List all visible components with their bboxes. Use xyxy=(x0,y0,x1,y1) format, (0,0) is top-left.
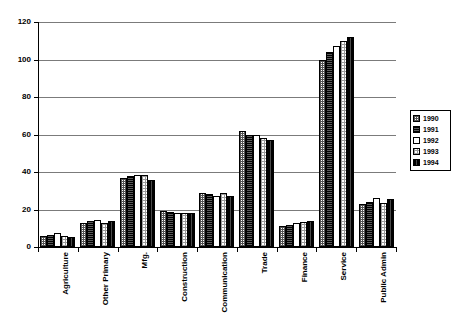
bar xyxy=(167,212,174,247)
bar xyxy=(40,236,47,247)
y-axis-tick-label: 0 xyxy=(27,243,31,251)
bar-group xyxy=(277,22,317,247)
y-axis-tick-label: 40 xyxy=(22,168,31,176)
bar-group xyxy=(356,22,396,247)
chart-figure: 020406080100120 19901991199219931994 Agr… xyxy=(0,0,464,326)
bar xyxy=(120,178,127,247)
legend-label: 1993 xyxy=(423,148,439,155)
bar-group xyxy=(118,22,158,247)
bar xyxy=(213,196,220,247)
bar-group xyxy=(78,22,118,247)
bar-group-bars xyxy=(316,22,356,247)
bar xyxy=(347,37,354,247)
x-axis-line xyxy=(38,247,397,248)
legend-item-1992[interactable]: 1992 xyxy=(413,135,448,146)
x-axis-tick-label: Construction xyxy=(181,252,189,302)
bar-group-bars xyxy=(38,22,78,247)
bar xyxy=(326,52,333,247)
bar xyxy=(199,193,206,247)
bar xyxy=(61,236,68,247)
x-axis-tick xyxy=(356,247,357,252)
x-axis-tick xyxy=(38,247,39,252)
legend-item-1993[interactable]: 1993 xyxy=(413,146,448,157)
x-axis-tick-label: Other Primary xyxy=(102,252,110,305)
x-axis-tick-label: Trade xyxy=(261,252,269,273)
bar xyxy=(380,203,387,247)
bar-group xyxy=(157,22,197,247)
bar xyxy=(220,193,227,247)
x-axis-tick xyxy=(277,247,278,252)
bar-group xyxy=(316,22,356,247)
bar xyxy=(101,223,108,247)
bar xyxy=(373,198,380,247)
bar xyxy=(293,223,300,247)
bar xyxy=(239,131,246,247)
legend-swatch-icon xyxy=(413,159,420,166)
bar xyxy=(260,138,267,247)
bar xyxy=(300,222,307,247)
bar xyxy=(47,235,54,247)
bar-group-bars xyxy=(277,22,317,247)
y-axis-tick-label: 20 xyxy=(22,206,31,214)
bar xyxy=(253,135,260,248)
x-axis-tick-label: Agriculture xyxy=(62,252,70,295)
bar-group-bars xyxy=(356,22,396,247)
bar-group-bars xyxy=(197,22,237,247)
y-axis-tick-label: 120 xyxy=(18,18,31,26)
bar xyxy=(108,221,115,247)
bar xyxy=(366,202,373,247)
chart-legend: 19901991199219931994 xyxy=(410,110,451,171)
bar-group xyxy=(197,22,237,247)
bar xyxy=(206,194,213,247)
bar-group-bars xyxy=(237,22,277,247)
bar xyxy=(227,196,234,247)
bar-group xyxy=(237,22,277,247)
bar xyxy=(267,140,274,247)
x-axis-tick xyxy=(78,247,79,252)
bar-group-bars xyxy=(118,22,158,247)
bar xyxy=(387,199,394,247)
x-axis-tick-label: Service xyxy=(340,252,348,280)
y-axis-line xyxy=(38,22,39,248)
bar xyxy=(286,225,293,248)
legend-item-1991[interactable]: 1991 xyxy=(413,124,448,135)
bar xyxy=(127,176,134,247)
x-axis-tick xyxy=(118,247,119,252)
legend-item-1994[interactable]: 1994 xyxy=(413,157,448,168)
x-axis-tick xyxy=(157,247,158,252)
bar xyxy=(181,213,188,247)
x-axis-tick-label: Mfg. xyxy=(141,252,149,268)
bar xyxy=(359,204,366,247)
x-axis-tick-label: Finance xyxy=(301,252,309,282)
bar xyxy=(87,221,94,247)
legend-swatch-icon xyxy=(413,137,420,144)
bar xyxy=(160,211,167,247)
bar xyxy=(174,213,181,247)
legend-label: 1992 xyxy=(423,137,439,144)
bar-group-bars xyxy=(78,22,118,247)
y-axis-tick-label: 80 xyxy=(22,93,31,101)
x-axis-tick-label: Communication xyxy=(221,252,229,312)
bar xyxy=(279,226,286,247)
legend-label: 1990 xyxy=(423,115,439,122)
legend-label: 1994 xyxy=(423,159,439,166)
legend-swatch-icon xyxy=(413,126,420,133)
legend-swatch-icon xyxy=(413,115,420,122)
x-axis-tick xyxy=(197,247,198,252)
bar xyxy=(141,175,148,247)
bar-group xyxy=(38,22,78,247)
bar xyxy=(80,223,87,247)
bar xyxy=(307,221,314,247)
bar-group-bars xyxy=(157,22,197,247)
x-axis-tick xyxy=(237,247,238,252)
bar xyxy=(246,135,253,247)
x-axis-tick xyxy=(316,247,317,252)
x-axis-tick xyxy=(396,247,397,252)
legend-swatch-icon xyxy=(413,148,420,155)
legend-item-1990[interactable]: 1990 xyxy=(413,113,448,124)
bar xyxy=(134,175,141,247)
x-axis-tick-label: Public Admin xyxy=(380,252,388,303)
legend-label: 1991 xyxy=(423,126,439,133)
bar xyxy=(54,233,61,247)
bar xyxy=(94,220,101,247)
